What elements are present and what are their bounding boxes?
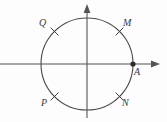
point-label-N: N	[122, 98, 129, 108]
point-marker-P	[51, 93, 59, 101]
point-label-P: P	[41, 98, 47, 108]
y-axis	[84, 4, 91, 118]
geometry-figure: Q M P N A	[0, 0, 167, 122]
y-axis-arrowhead-icon	[84, 4, 91, 13]
point-label-M: M	[123, 18, 131, 28]
figure-canvas	[0, 0, 167, 122]
point-marker-M	[116, 28, 124, 36]
x-axis-arrowhead-icon	[151, 61, 160, 68]
point-marker-Q	[51, 28, 59, 36]
point-label-Q: Q	[39, 18, 46, 28]
point-label-A: A	[134, 67, 140, 77]
